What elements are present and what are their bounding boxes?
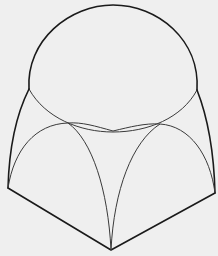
right-arch-inner [111, 124, 160, 250]
dome-diagram: Dome over pendentives on a square bay [0, 0, 218, 256]
dome-base-ring [29, 89, 197, 132]
right-arch-outer [113, 124, 215, 193]
left-arch-inner [68, 123, 111, 250]
left-arch-outer [8, 123, 113, 188]
dome-arc [29, 5, 197, 90]
